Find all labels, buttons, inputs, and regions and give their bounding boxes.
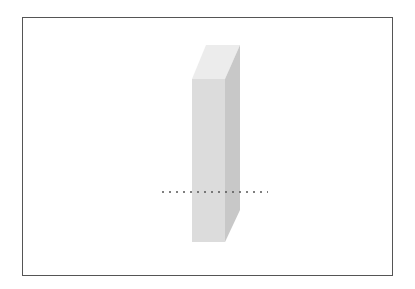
prism-side-face (225, 45, 240, 242)
prism-diagram (0, 0, 415, 289)
prism-front-face (192, 79, 225, 242)
